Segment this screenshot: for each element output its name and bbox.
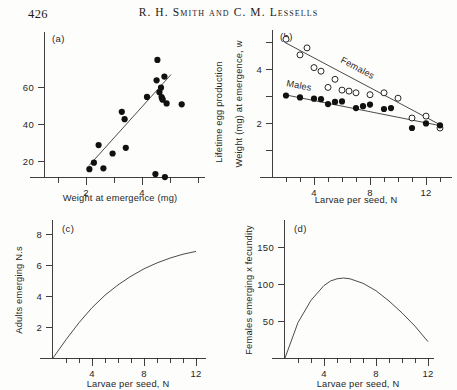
data-point [423, 120, 429, 126]
running-head: 426 R. H. Smith and C. M. Lessells [0, 6, 457, 24]
panel-a-ytick-60: 60 [23, 82, 34, 93]
data-point [437, 122, 443, 128]
panel-b-ytick-4: 4 [256, 64, 262, 75]
panel-d-label: (d) [294, 223, 307, 234]
panel-a-plot: 60 40 20 2 4 (a) [0, 24, 232, 204]
data-point [158, 85, 164, 91]
panel-c-x-ticks [66, 358, 196, 366]
panel-b: 2 4 [228, 24, 457, 204]
panel-c-label: (c) [62, 223, 74, 234]
panel-d-ytick-100: 100 [257, 279, 274, 290]
panel-b-plot: 2 4 [228, 24, 457, 204]
panel-c-ytick-4: 4 [36, 291, 42, 302]
panel-d-y-ticks [278, 247, 284, 321]
data-point [154, 77, 160, 83]
panel-d-plot: 50 100 150 [228, 206, 457, 390]
data-point [154, 57, 160, 63]
panel-a-ytick-40: 40 [23, 119, 34, 130]
panel-d-curve [285, 278, 428, 358]
data-point [409, 115, 415, 121]
data-point [388, 105, 394, 111]
figure-page: 426 R. H. Smith and C. M. Lessells 60 40… [0, 0, 457, 390]
data-point [311, 96, 317, 102]
panel-b-series-label-males: Males [286, 78, 313, 93]
running-title: R. H. Smith and C. M. Lessells [0, 6, 457, 18]
panel-d-x-ticklabels: 4 8 12 [321, 368, 433, 379]
panel-b-x-ticks [286, 177, 440, 185]
panel-c-xtick-12: 12 [190, 368, 201, 379]
data-point [332, 76, 338, 82]
data-point [353, 90, 359, 96]
panel-c-xlabel: Larvae per seed, N [87, 379, 170, 389]
data-point [297, 52, 303, 58]
data-point [161, 74, 167, 80]
data-point [304, 45, 310, 51]
data-point [91, 160, 97, 166]
data-point [179, 101, 185, 107]
panel-b-y-ticks [266, 42, 272, 150]
panel-c-x-ticklabels: 4 8 12 [89, 368, 201, 379]
panel-a-ylabel: Lifetime egg production [214, 61, 224, 162]
data-point [381, 106, 387, 112]
panel-b-males-points [283, 92, 443, 131]
panel-c-y-ticklabels: 2 4 6 8 [36, 229, 42, 333]
data-point [325, 101, 331, 107]
panel-d-ytick-150: 150 [257, 242, 274, 253]
panel-c-xtick-8: 8 [141, 368, 147, 379]
panel-c-curve [53, 251, 196, 358]
panel-c-ytick-6: 6 [36, 260, 42, 271]
data-point [152, 171, 158, 177]
data-point [339, 87, 345, 93]
data-point [283, 36, 289, 42]
data-point [395, 95, 401, 101]
panel-b-y-ticklabels: 2 4 [256, 64, 262, 129]
data-point [423, 113, 429, 119]
data-point [367, 92, 373, 98]
panel-a-y-ticklabels: 60 40 20 [23, 82, 34, 167]
panel-a-label: (a) [52, 33, 65, 44]
panel-b-ylabel: Weight (mg) at emergence, w [234, 40, 244, 167]
data-point [325, 84, 331, 90]
panel-b-males-fit-line [285, 95, 443, 127]
data-point [283, 92, 289, 98]
panel-d-xtick-12: 12 [422, 368, 433, 379]
data-point [119, 109, 125, 115]
panel-c-plot: 2 4 6 8 [0, 206, 232, 390]
panel-c-ytick-8: 8 [36, 229, 42, 240]
data-point [360, 103, 366, 109]
data-point [164, 100, 170, 106]
data-point [346, 88, 352, 94]
panel-d-x-ticks [298, 358, 428, 366]
data-point [122, 116, 128, 122]
panel-c-ylabel: Adults emerging N.s [14, 246, 24, 334]
panel-a: 60 40 20 2 4 (a) [0, 24, 232, 204]
data-point [318, 68, 324, 74]
panel-d-xlabel: Larvae per seed, N [317, 379, 400, 389]
data-point [144, 94, 150, 100]
data-point [367, 102, 373, 108]
data-point [297, 94, 303, 100]
panel-a-xlabel: Weight at emergence (mg) [63, 193, 178, 203]
panel-c-y-ticks [46, 234, 52, 327]
panel-b-xtick-12: 12 [420, 187, 431, 198]
panel-a-ytick-20: 20 [23, 156, 34, 167]
data-point [381, 90, 387, 96]
data-point [96, 142, 102, 148]
panel-d-ylabel: Females emerging x fecundity [244, 225, 254, 355]
panel-d-ytick-50: 50 [263, 316, 274, 327]
figure-four-panels: 60 40 20 2 4 (a) [0, 24, 457, 390]
data-point [311, 65, 317, 71]
data-point [110, 150, 116, 156]
panel-a-y-ticks [38, 87, 44, 161]
panel-d-y-ticklabels: 50 100 150 [257, 242, 274, 327]
panel-d: 50 100 150 [228, 206, 457, 390]
panel-d-xtick-8: 8 [373, 368, 379, 379]
data-point [162, 174, 168, 180]
data-point [339, 98, 345, 104]
data-point [353, 105, 359, 111]
data-point [332, 99, 338, 105]
data-point [86, 166, 92, 172]
panel-b-ytick-2: 2 [256, 118, 262, 129]
panel-b-series-label-females: Females [339, 55, 376, 81]
panel-c-ytick-2: 2 [36, 322, 42, 333]
